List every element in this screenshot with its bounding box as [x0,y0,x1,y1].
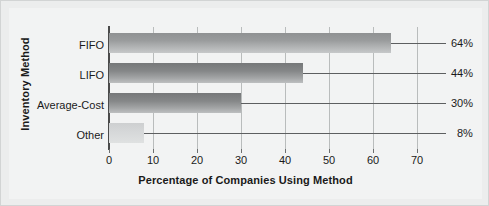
value-label-average-cost: 30% [451,97,473,109]
leader-line-lifo [303,73,446,74]
tick-mark-50 [329,149,330,153]
x-axis-title: Percentage of Companies Using Method [1,174,489,186]
value-label-other: 8% [457,127,473,139]
y-axis-label-average-cost: Average-Cost [4,99,104,111]
bar-fifo [109,33,391,53]
x-axis-label-40: 40 [270,154,300,166]
bar-other [109,123,144,143]
tick-mark-60 [373,149,374,153]
x-axis-label-70: 70 [402,154,432,166]
bar-lifo [109,63,303,83]
x-axis-label-20: 20 [182,154,212,166]
x-axis-label-30: 30 [226,154,256,166]
tick-mark-0 [109,149,110,153]
y-axis-label-other: Other [4,129,104,141]
x-axis-label-60: 60 [358,154,388,166]
tick-mark-30 [241,149,242,153]
value-label-fifo: 64% [451,37,473,49]
chart-container: Inventory Method FIFO LIFO Average-Cost … [0,0,489,206]
x-axis-label-50: 50 [314,154,344,166]
plot-area [109,27,417,149]
x-axis-label-0: 0 [94,154,124,166]
bar-average-cost [109,93,241,113]
x-axis-label-10: 10 [138,154,168,166]
y-axis-label-lifo: LIFO [4,69,104,81]
leader-line-fifo [391,43,446,44]
gridline-70 [417,27,418,149]
leader-line-other [144,133,446,134]
tick-mark-10 [153,149,154,153]
tick-mark-40 [285,149,286,153]
tick-mark-70 [417,149,418,153]
leader-line-average-cost [241,103,446,104]
tick-mark-20 [197,149,198,153]
value-label-lifo: 44% [451,67,473,79]
y-axis-label-fifo: FIFO [4,39,104,51]
